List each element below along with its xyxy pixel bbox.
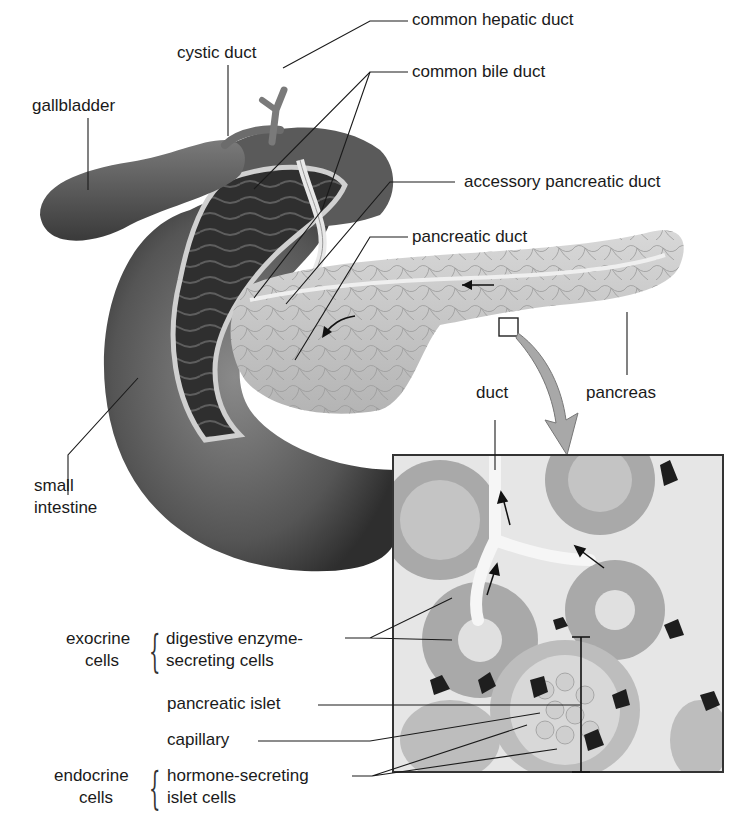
label-gallbladder: gallbladder	[32, 96, 115, 116]
label-common-bile-duct: common bile duct	[412, 62, 545, 82]
pancreas-illustration	[0, 0, 734, 828]
label-pancreatic-duct: pancreatic duct	[412, 227, 527, 247]
label-pancreatic-islet: pancreatic islet	[167, 694, 280, 714]
label-endocrine: endocrine	[54, 765, 129, 787]
label-digestive-enzyme-line1: digestive enzyme-	[166, 628, 303, 650]
brace-exocrine: {	[149, 629, 160, 674]
label-hormone-secreting-line2: islet cells	[167, 787, 236, 809]
label-endocrine-cells: cells	[79, 787, 113, 809]
brace-endocrine: {	[149, 766, 160, 811]
magnify-arrow	[516, 333, 578, 455]
label-capillary: capillary	[167, 730, 229, 750]
label-small-intestine-line2: intestine	[34, 497, 97, 519]
label-cystic-duct: cystic duct	[177, 43, 256, 63]
label-digestive-enzyme-line2: secreting cells	[166, 650, 274, 672]
label-pancreas: pancreas	[586, 383, 656, 403]
magnify-region-box	[499, 318, 518, 336]
label-exocrine: exocrine	[66, 628, 130, 650]
tissue-inset	[380, 425, 730, 794]
label-hormone-secreting-line1: hormone-secreting	[167, 765, 309, 787]
label-exocrine-cells: cells	[85, 650, 119, 672]
label-accessory-pancreatic-duct: accessory pancreatic duct	[464, 172, 661, 192]
label-common-hepatic-duct: common hepatic duct	[412, 10, 574, 30]
label-small-intestine-line1: small	[34, 475, 74, 497]
label-duct: duct	[476, 383, 508, 403]
